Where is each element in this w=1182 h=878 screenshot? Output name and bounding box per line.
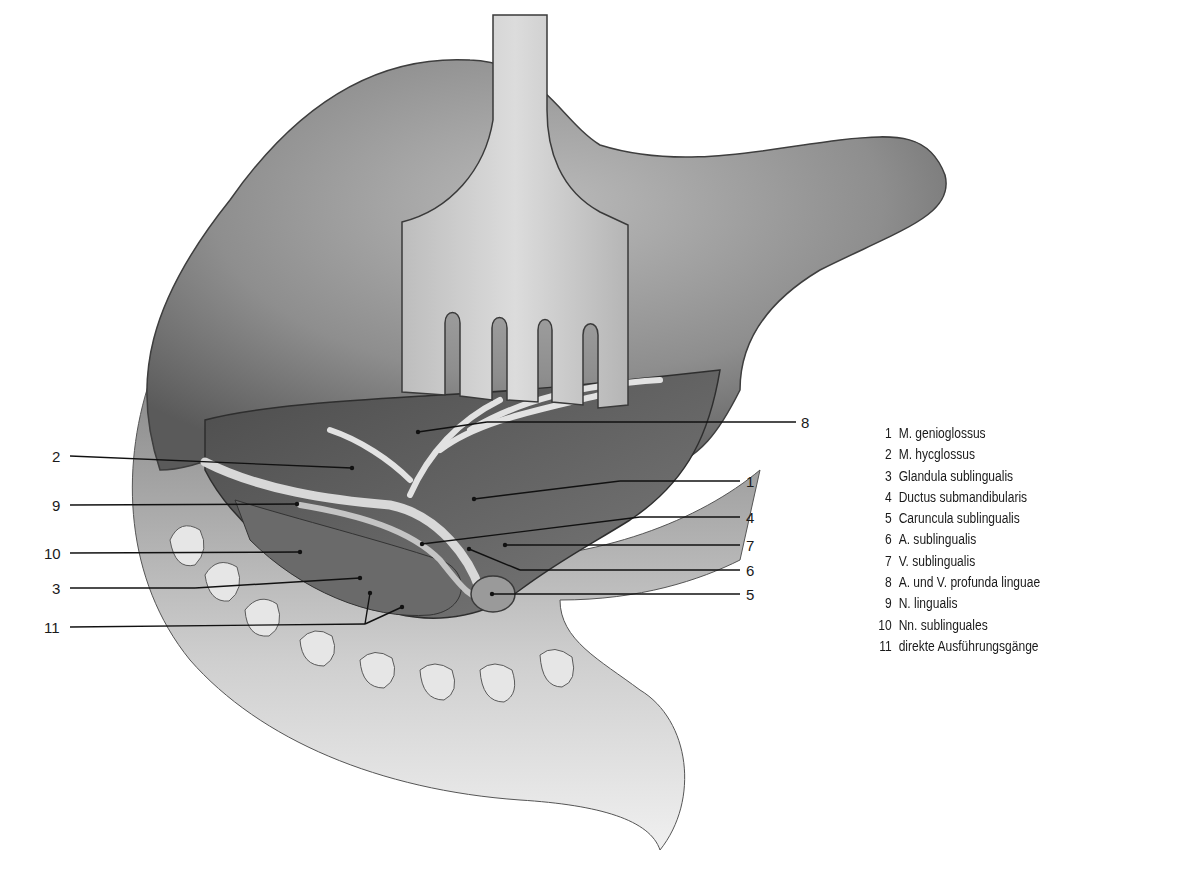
legend-text: Caruncula sublingualis [899, 510, 1020, 526]
legend-text: direkte Ausführungsgänge [899, 638, 1039, 654]
legend-item: 8A. und V. profunda linguae [878, 572, 1040, 593]
callout-label-7: 7 [746, 538, 754, 553]
legend: 1M. genioglossus 2M. hycglossus 3Glandul… [878, 423, 1040, 657]
callout-label-9: 9 [52, 498, 60, 513]
callout-label-8: 8 [801, 415, 809, 430]
callout-label-10: 10 [44, 546, 61, 561]
legend-text: Glandula sublingualis [899, 468, 1013, 484]
legend-item: 3Glandula sublingualis [878, 466, 1040, 487]
legend-text: A. sublingualis [899, 531, 977, 547]
legend-item: 4Ductus submandibularis [878, 487, 1040, 508]
callout-label-1: 1 [746, 474, 754, 489]
legend-text: Ductus submandibularis [899, 489, 1027, 505]
callout-label-3: 3 [52, 581, 60, 596]
legend-text: M. genioglossus [899, 425, 986, 441]
legend-item: 9N. lingualis [878, 593, 1040, 614]
legend-item: 11direkte Ausführungsgänge [878, 636, 1040, 657]
legend-item: 6A. sublingualis [878, 529, 1040, 550]
callout-label-2: 2 [52, 449, 60, 464]
callout-label-6: 6 [746, 563, 754, 578]
legend-item: 2M. hycglossus [878, 444, 1040, 465]
legend-text: N. lingualis [899, 595, 958, 611]
legend-item: 7V. sublingualis [878, 551, 1040, 572]
legend-item: 10Nn. sublinguales [878, 615, 1040, 636]
legend-text: M. hycglossus [899, 446, 975, 462]
legend-text: V. sublingualis [899, 553, 976, 569]
legend-text: Nn. sublinguales [899, 617, 988, 633]
legend-text: A. und V. profunda linguae [899, 574, 1040, 590]
callout-label-4: 4 [746, 510, 754, 525]
callout-label-5: 5 [746, 587, 754, 602]
legend-item: 1M. genioglossus [878, 423, 1040, 444]
legend-item: 5Caruncula sublingualis [878, 508, 1040, 529]
callout-label-11: 11 [44, 620, 60, 635]
